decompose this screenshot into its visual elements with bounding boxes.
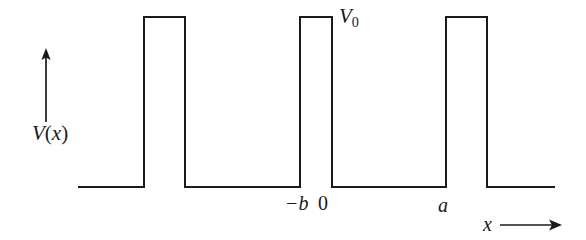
y-axis-label: V(x) bbox=[32, 123, 68, 144]
y-axis-label-v: V bbox=[32, 121, 45, 145]
y-axis-label-var: x bbox=[52, 121, 61, 145]
barrier-height-label: V0 bbox=[339, 6, 359, 29]
tick-label-a: a bbox=[438, 195, 448, 215]
potential-diagram-figure: V(x) V0 −b 0 a x bbox=[0, 0, 586, 240]
y-axis-label-paren-close: ) bbox=[61, 121, 68, 145]
x-axis-arrow bbox=[500, 220, 562, 231]
barrier-height-subscript: 0 bbox=[352, 14, 359, 30]
tick-label-zero: 0 bbox=[318, 193, 328, 213]
barrier-height-symbol: V bbox=[339, 4, 352, 28]
potential-profile-polyline bbox=[78, 17, 555, 187]
y-axis-arrow bbox=[41, 48, 50, 122]
tick-label-minus-b: −b bbox=[285, 193, 309, 213]
x-axis-label: x bbox=[483, 214, 492, 234]
y-axis-label-paren-open: ( bbox=[45, 121, 52, 145]
